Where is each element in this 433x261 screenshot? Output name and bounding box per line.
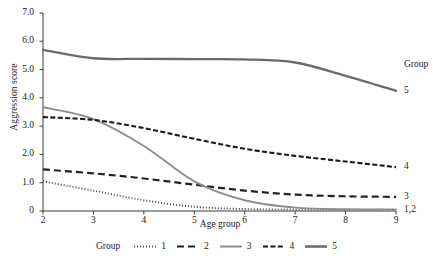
- legend-item-2[interactable]: 2: [177, 241, 209, 251]
- legend-item-4[interactable]: 4: [263, 241, 295, 251]
- legend-item-5[interactable]: 5: [305, 241, 337, 251]
- legend-swatch-icon: [220, 242, 242, 251]
- legend-label: 1: [161, 241, 166, 251]
- chart-legend: Group 12345: [0, 236, 433, 256]
- legend-item-1[interactable]: 1: [134, 241, 166, 251]
- legend-label: 2: [204, 241, 209, 251]
- legend-swatch-icon: [305, 242, 327, 251]
- legend-label: 4: [290, 241, 295, 251]
- plot-area: [0, 0, 433, 261]
- legend-swatch-icon: [263, 242, 285, 251]
- legend-label: 5: [332, 241, 337, 251]
- legend-title: Group: [96, 241, 120, 251]
- legend-item-3[interactable]: 3: [220, 241, 252, 251]
- series-line-5: [43, 50, 396, 91]
- aggression-score-line-chart: Aggression score Age group 01.02.03.04.0…: [0, 0, 433, 261]
- legend-label: 3: [247, 241, 252, 251]
- series-line-3: [43, 107, 396, 209]
- series-line-4: [43, 117, 396, 167]
- legend-swatch-icon: [177, 242, 199, 251]
- legend-swatch-icon: [134, 242, 156, 251]
